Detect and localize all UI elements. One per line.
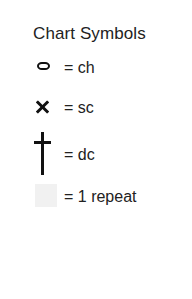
double-crochet-dagger-icon	[31, 141, 61, 167]
legend-row-repeat: = 1 repeat	[0, 183, 137, 209]
legend-label-ch: = ch	[64, 58, 95, 77]
legend-row-ch: = ch	[0, 54, 95, 80]
chain-stitch-oval-icon	[31, 54, 61, 80]
legend-label-repeat: = 1 repeat	[64, 187, 137, 206]
chart-symbols-legend: Chart Symbols = ch = sc = dc = 1 repeat	[0, 0, 192, 299]
legend-row-sc: = sc	[0, 94, 94, 120]
legend-row-dc: = dc	[0, 141, 95, 167]
single-crochet-x-icon	[31, 94, 61, 120]
legend-title: Chart Symbols	[33, 24, 146, 44]
repeat-swatch-square-icon	[31, 183, 61, 209]
legend-label-sc: = sc	[64, 98, 94, 117]
legend-label-dc: = dc	[64, 145, 95, 164]
